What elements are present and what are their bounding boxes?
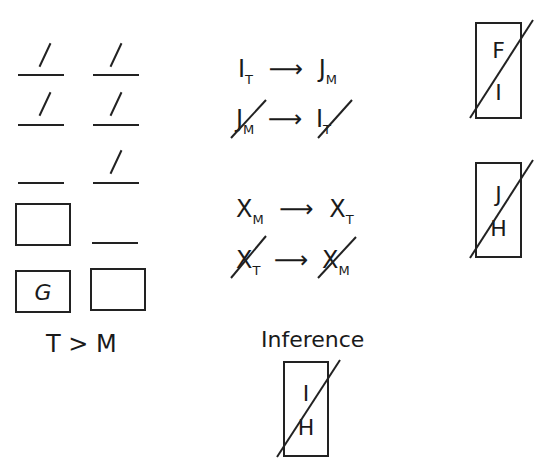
block-letter: I	[285, 381, 327, 406]
slot-line	[93, 74, 139, 76]
rule-letter: I	[316, 105, 323, 133]
rule-sub: T	[323, 122, 331, 137]
slash-mark	[110, 92, 123, 116]
rule-sub: M	[339, 263, 350, 278]
slot-box-empty	[15, 203, 71, 246]
slot-line	[18, 74, 64, 76]
block-letter: H	[285, 415, 327, 440]
rule-sub: M	[326, 72, 337, 87]
rule-letter: X	[329, 195, 345, 223]
slot-box-empty	[90, 268, 146, 311]
rule-letter: X	[236, 195, 252, 223]
rule-sub: M	[243, 122, 254, 137]
arrow-icon: ⟶	[274, 246, 308, 274]
arrow-icon: ⟶	[268, 105, 302, 133]
slot-line	[92, 242, 138, 244]
rule-1: IT ⟶ JM	[238, 55, 337, 87]
rule-sub: T	[245, 72, 253, 87]
rule-3: XM ⟶ XT	[236, 195, 354, 227]
slash-mark	[110, 43, 123, 67]
rule-sub: T	[252, 263, 260, 278]
rule-letter: X	[236, 246, 252, 274]
rule-sub: M	[252, 212, 263, 227]
block-letter: I	[477, 80, 520, 105]
rule-2-contrapositive: JM ⟶ IT	[236, 105, 331, 137]
letter-g: G	[17, 280, 69, 305]
inference-label: Inference	[261, 327, 364, 352]
rule-4-contrapositive: XT ⟶ XM	[236, 246, 350, 278]
slot-line	[93, 124, 139, 126]
slot-box-g: G	[15, 270, 71, 313]
rule-letter: J	[319, 55, 326, 83]
rule-sub: T	[346, 212, 354, 227]
block-letter: J	[477, 182, 520, 207]
arrow-icon: ⟶	[269, 55, 303, 83]
not-together-block-j-h: J H	[475, 162, 522, 258]
slot-line	[18, 124, 64, 126]
slash-mark	[39, 43, 52, 67]
slot-line	[18, 182, 64, 184]
slot-line	[93, 182, 139, 184]
block-letter: F	[477, 38, 520, 63]
inference-block-i-h: I H	[283, 361, 329, 457]
block-letter: H	[477, 216, 520, 241]
ordering-rule: T > M	[46, 330, 117, 358]
arrow-icon: ⟶	[279, 195, 313, 223]
not-together-block-f-i: F I	[475, 22, 522, 119]
rule-letter: X	[322, 246, 338, 274]
slash-mark	[39, 92, 52, 116]
slash-mark	[110, 150, 123, 174]
